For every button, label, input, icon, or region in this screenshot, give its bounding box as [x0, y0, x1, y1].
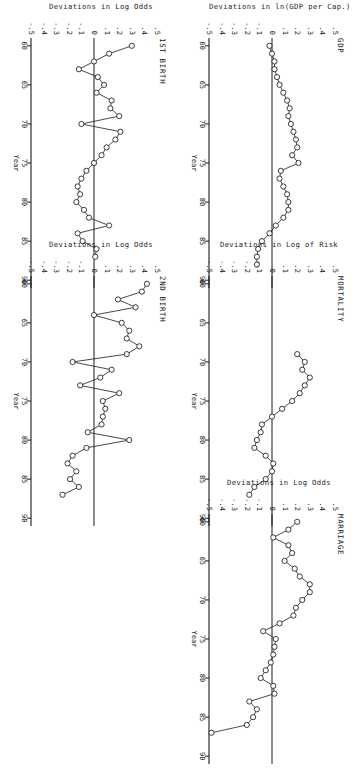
data-point-marker	[277, 82, 282, 87]
data-point-marker	[307, 582, 312, 587]
data-point-marker	[290, 398, 295, 403]
x-tick-label: 75	[20, 159, 28, 167]
y-tick-label: -.5	[205, 13, 213, 35]
data-series-line	[76, 46, 131, 257]
data-point-marker	[291, 613, 296, 618]
x-tick-label: 85	[198, 475, 206, 483]
data-point-marker	[293, 605, 298, 610]
data-point-marker	[109, 98, 114, 103]
data-point-marker	[117, 114, 122, 119]
data-point-marker	[98, 375, 103, 380]
data-point-marker	[271, 535, 276, 540]
data-point-marker	[78, 383, 83, 388]
data-point-marker	[272, 644, 277, 649]
x-tick-label: 85	[198, 713, 206, 721]
data-point-marker	[91, 59, 96, 64]
data-point-marker	[258, 675, 263, 680]
data-point-marker	[254, 707, 259, 712]
data-point-marker	[99, 422, 104, 427]
data-point-marker	[302, 359, 307, 364]
y-tick-label: -.3	[52, 251, 60, 273]
data-point-marker	[292, 566, 297, 571]
y-tick-label: .5	[153, 13, 161, 35]
data-point-marker	[277, 621, 282, 626]
data-point-marker	[271, 652, 276, 657]
data-point-marker	[247, 699, 252, 704]
x-axis-label: Year	[190, 631, 198, 648]
data-point-marker	[65, 461, 70, 466]
data-point-marker	[261, 629, 266, 634]
y-tick-label: -.5	[27, 251, 35, 273]
y-tick-label: -.1	[255, 489, 263, 511]
data-point-marker	[254, 437, 259, 442]
data-series-line	[63, 284, 147, 495]
x-tick-label: 60	[198, 280, 206, 288]
x-tick-label: 80	[198, 198, 206, 206]
y-tick-label: -.4	[40, 251, 48, 273]
data-point-marker	[78, 192, 83, 197]
chart-svg	[17, 276, 157, 527]
x-tick-label: 85	[20, 237, 28, 245]
data-point-marker	[296, 160, 301, 165]
panel-title-second-birth: 2ND BIRTH	[158, 276, 167, 322]
y-tick-label: .5	[331, 13, 339, 35]
x-tick-label: 80	[20, 436, 28, 444]
data-point-marker	[307, 590, 312, 595]
data-point-marker	[297, 574, 302, 579]
data-point-marker	[103, 406, 108, 411]
x-tick-label: 60	[20, 280, 28, 288]
panel-title-marriage: MARRIAGE	[336, 514, 345, 555]
data-point-marker	[75, 184, 80, 189]
data-point-marker	[124, 352, 129, 357]
data-point-marker	[302, 383, 307, 388]
x-tick-label: 75	[198, 397, 206, 405]
y-tick-label: .3	[128, 251, 136, 273]
data-point-marker	[269, 414, 274, 419]
data-point-marker	[144, 281, 149, 286]
data-point-marker	[279, 406, 284, 411]
data-point-marker	[281, 215, 286, 220]
data-point-marker	[109, 367, 114, 372]
y-tick-label: .1	[281, 251, 289, 273]
y-tick-label: .3	[306, 13, 314, 35]
x-tick-label: 65	[198, 557, 206, 565]
y-tick-label: -.4	[218, 489, 226, 511]
y-tick-label: .3	[306, 251, 314, 273]
y-tick-label: .3	[128, 13, 136, 35]
data-point-marker	[118, 129, 123, 134]
panel-title-mortality: MORTALITY	[336, 276, 345, 322]
data-point-marker	[285, 98, 290, 103]
x-tick-label: 80	[198, 436, 206, 444]
data-point-marker	[271, 461, 276, 466]
data-point-marker	[274, 74, 279, 79]
data-point-marker	[269, 51, 274, 56]
y-tick-label: .1	[103, 251, 111, 273]
data-point-marker	[107, 51, 112, 56]
x-axis-label: Year	[12, 155, 20, 172]
data-point-marker	[119, 320, 124, 325]
y-tick-label: .2	[293, 13, 301, 35]
data-point-marker	[281, 184, 286, 189]
panel-title-first-birth: 1ST BIRTH	[158, 38, 167, 84]
y-tick-label: .2	[115, 13, 123, 35]
data-point-marker	[70, 359, 75, 364]
data-point-marker	[293, 137, 298, 142]
y-tick-label: .2	[293, 251, 301, 273]
data-point-marker	[74, 469, 79, 474]
data-point-marker	[99, 153, 104, 158]
data-point-marker	[295, 145, 300, 150]
data-point-marker	[108, 106, 113, 111]
data-point-marker	[263, 668, 268, 673]
data-point-marker	[269, 469, 274, 474]
plot-area-marriage: .5.4.3.2.10-.1-.2-.3-.4-.560657075808590…	[209, 514, 335, 764]
data-point-marker	[300, 597, 305, 602]
x-tick-label: 70	[198, 120, 206, 128]
data-point-marker	[263, 453, 268, 458]
data-point-marker	[94, 90, 99, 95]
x-axis-label: Year	[190, 393, 198, 410]
y-tick-label: -.2	[65, 251, 73, 273]
panel-marriage: MARRIAGE Deviations in Log Odds .5.4.3.2…	[187, 484, 347, 768]
y-tick-label: 0	[90, 251, 98, 273]
data-point-marker	[76, 484, 81, 489]
